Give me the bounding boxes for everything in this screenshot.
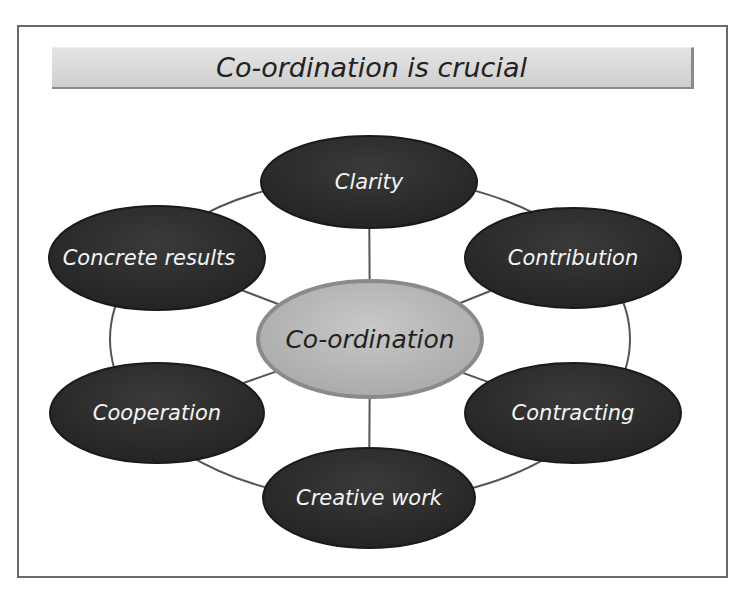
node-label: Creative work bbox=[296, 486, 442, 510]
node-label: Clarity bbox=[335, 170, 404, 194]
center-label: Co-ordination bbox=[285, 325, 454, 354]
node-label: Concrete results bbox=[63, 246, 236, 270]
node-label: Contracting bbox=[512, 401, 635, 425]
node-label: Contribution bbox=[508, 246, 638, 270]
node-label: Cooperation bbox=[93, 401, 221, 425]
